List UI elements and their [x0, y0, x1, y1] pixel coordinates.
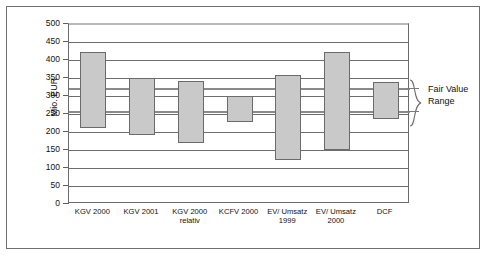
- gridline: [69, 60, 408, 61]
- y-axis-tick-label: 300: [0, 90, 60, 100]
- x-axis-label: EV/ Umsatz 2000: [312, 207, 361, 225]
- range-bar: [373, 82, 399, 119]
- y-axis-tick-label: 50: [0, 180, 60, 190]
- y-axis-tick-label: 0: [0, 198, 60, 208]
- gridline: [69, 168, 408, 169]
- gridline: [69, 132, 408, 133]
- y-axis-tick-label: 350: [0, 72, 60, 82]
- gridline: [69, 42, 408, 43]
- y-axis-tick-label: 250: [0, 108, 60, 118]
- range-bar: [80, 52, 106, 129]
- range-bar: [324, 52, 350, 151]
- y-axis-tick-label: 450: [0, 36, 60, 46]
- y-axis-tick-label: 150: [0, 144, 60, 154]
- x-axis-label: KCFV 2000: [214, 207, 263, 216]
- brace-connector-lower: [407, 111, 419, 112]
- gridline: [69, 186, 408, 187]
- range-bar: [275, 75, 301, 160]
- y-axis-tick-label: 400: [0, 54, 60, 64]
- x-axis-label: KGV 2000 relativ: [165, 207, 214, 225]
- range-bar: [129, 78, 155, 135]
- y-axis-tick-label: 200: [0, 126, 60, 136]
- y-axis-tick-label: 100: [0, 162, 60, 172]
- fair-value-range-label: Fair Value Range: [428, 83, 468, 107]
- chart-screenshot: Mio. EUR 050100150200250300350400450500 …: [0, 0, 489, 260]
- gridline: [69, 150, 408, 151]
- x-axis-label: EV/ Umsatz 1999: [263, 207, 312, 225]
- x-axis-label: KGV 2001: [117, 207, 166, 216]
- band-upper-edge: [69, 88, 410, 90]
- y-axis-tick-label: 500: [0, 18, 60, 28]
- x-axis-label: KGV 2000: [68, 207, 117, 216]
- gridline: [69, 24, 408, 25]
- range-bar: [227, 96, 253, 122]
- range-bar: [178, 81, 204, 143]
- x-axis-label: DCF: [360, 207, 409, 216]
- brace-connector-upper: [407, 88, 419, 89]
- gridline: [69, 78, 408, 79]
- plot-area: [68, 23, 409, 203]
- fair-value-brace-icon: [409, 79, 423, 127]
